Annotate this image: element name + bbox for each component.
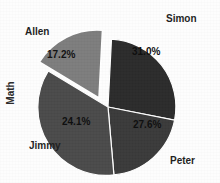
slice-percent-jimmy: 24.1% [62,116,90,127]
slice-percent-peter: 27.6% [133,119,161,130]
slice-percent-allen: 17.2% [47,49,75,60]
slice-label-peter: Peter [170,155,195,166]
slice-percent-simon: 31.0% [132,46,160,57]
chart-canvas: Math Simon Peter Jimmy Allen 31.0% 27.6%… [0,0,220,183]
slice-label-allen: Allen [25,26,49,37]
slice-label-jimmy: Jimmy [29,140,61,151]
slice-label-simon: Simon [166,13,197,24]
